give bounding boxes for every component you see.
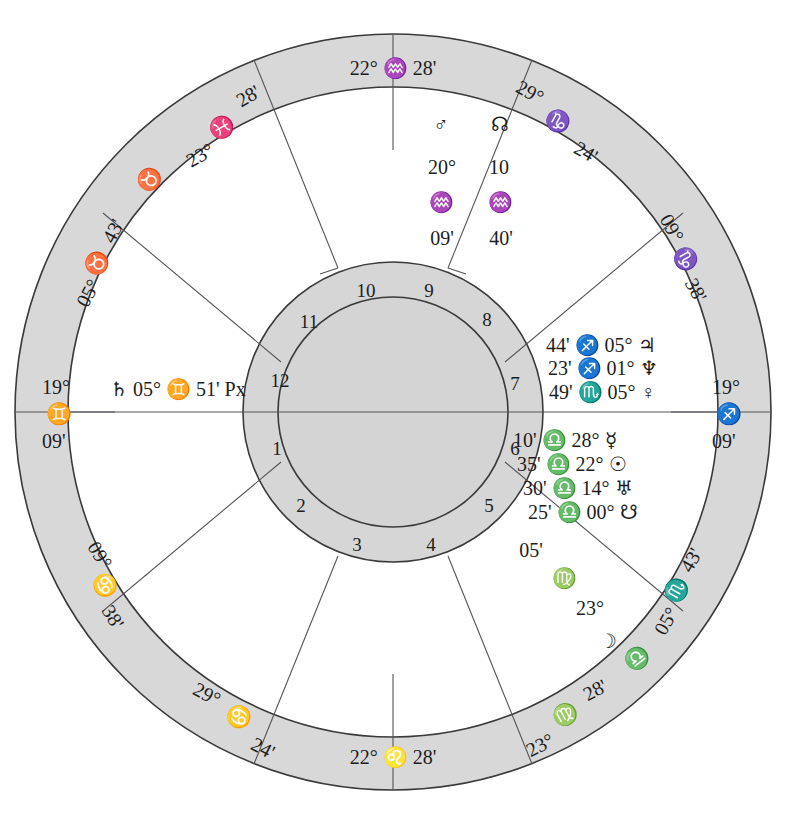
planet-north-node-degree: 10 [489,156,509,178]
gemini-icon: ♊ [46,403,72,427]
house-number-7: 7 [510,373,520,394]
house-number-4: 4 [426,534,436,555]
planet-venus: 49' ♏ 05° ♀ [549,381,656,403]
ring-label-descendant-minute: 09' [712,430,736,452]
planet-mars-degree: 20° [428,156,456,178]
ring-label-midheaven: 22° ♒ 28' [350,57,437,79]
house-number-11: 11 [300,311,318,332]
planet-mars-sign-icon: ♒ [429,191,454,213]
planet-moon-minute: 05' [519,539,543,561]
house-number-5: 5 [484,495,494,516]
planet-south-node: 25' ♎ 00° ☋ [528,501,638,523]
house-number-1: 1 [272,438,282,459]
planet-north-node-sign-icon: ♒ [488,191,513,213]
house-number-10: 10 [357,280,376,301]
planet-moon-degree: 23° [576,597,604,619]
mars-icon: ♂ [434,113,449,135]
planet-north-node-minute: 40' [489,227,513,249]
house-number-3: 3 [352,534,362,555]
north-node-icon: ☊ [491,113,509,135]
ring-label-ascendant-minute: 09' [42,430,66,452]
ring-label-imum-coeli: 22° ♌ 28' [350,746,437,768]
planet-sun: 35' ♎ 22° ☉ [517,453,627,475]
moon-icon: ☽ [599,630,617,652]
planet-uranus: 30' ♎ 14° ♅ [523,477,633,499]
house-number-2: 2 [296,495,306,516]
house-number-12: 12 [271,370,290,391]
planet-mercury: 10' ♎ 28° ☿ [513,429,617,451]
planet-moon-sign-icon: ♍ [552,567,577,589]
house-number-9: 9 [424,280,434,301]
house-number-8: 8 [482,309,492,330]
planet-neptune: 23' ♐ 01° ♆ [548,357,658,379]
planet-saturn: ♄ 05° ♊ 51' Px [110,378,246,400]
ring-label-ascendant-degree: 19° [42,376,70,398]
planet-mars-minute: 09' [430,227,454,249]
ring-label-descendant-degree: 19° [712,376,740,398]
sagittarius-icon: ♐ [716,403,742,427]
planet-jupiter: 44' ♐ 05° ♃ [546,334,656,356]
chart-wheel [0,0,787,832]
